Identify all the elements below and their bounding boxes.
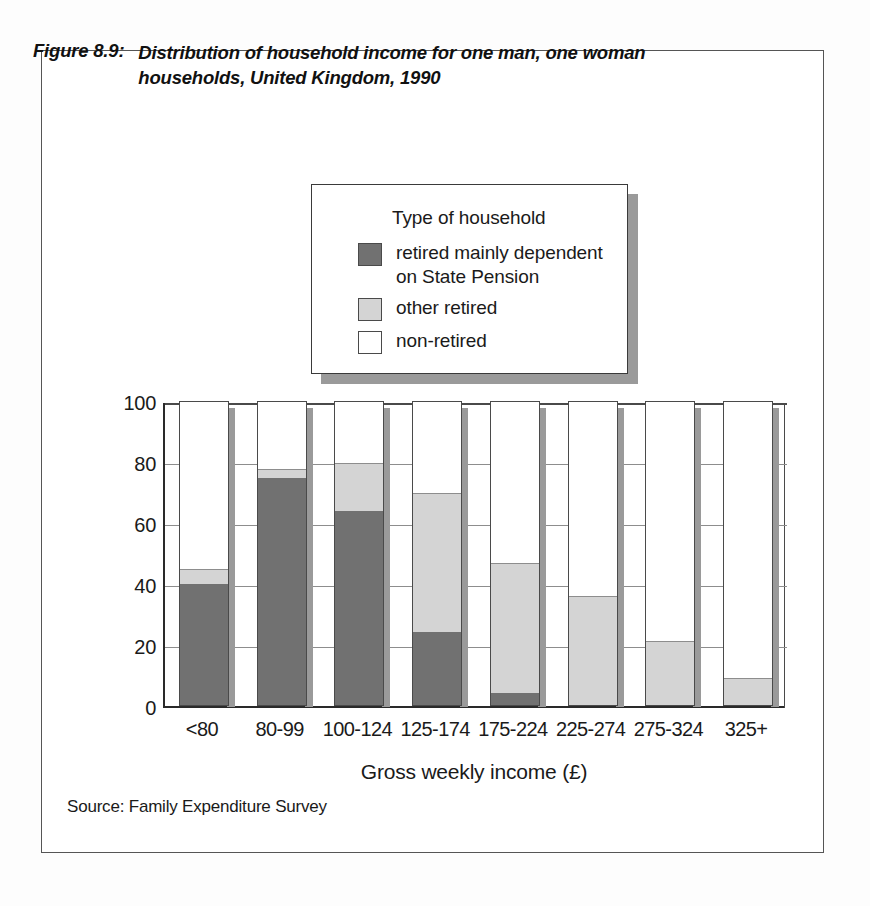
bar-segment: [491, 693, 539, 705]
page-title: Distribution of household income for one…: [138, 40, 698, 90]
bar-group: [632, 401, 710, 706]
legend-swatch-icon: [358, 331, 382, 354]
legend-item-label: non-retired: [396, 329, 487, 353]
y-axis-tick-0: 0: [110, 697, 156, 720]
source-note: Source: Family Expenditure Survey: [67, 797, 327, 817]
figure-page: Figure 8.9: Distribution of household in…: [0, 0, 870, 906]
stacked-bar[interactable]: [490, 401, 540, 706]
bar-segment: [569, 402, 617, 596]
x-axis-tick-125-174: 125-174: [396, 718, 474, 741]
bar-group: [243, 401, 321, 706]
y-axis-ticks: 020406080100: [104, 403, 156, 708]
bar-segment: [335, 463, 383, 511]
bar-segment: [258, 478, 306, 705]
stacked-bar[interactable]: [412, 401, 462, 706]
bar-group: [554, 401, 632, 706]
bar-group: [321, 401, 399, 706]
chart-plot-area: [163, 403, 785, 708]
bar-segment: [413, 493, 461, 632]
bar-segment: [180, 402, 228, 569]
x-axis-label: Gross weekly income (£): [163, 760, 785, 784]
bar-segment: [180, 584, 228, 705]
y-axis-tick-80: 80: [110, 453, 156, 476]
legend-swatch-icon: [358, 243, 382, 266]
bar-group: [165, 401, 243, 706]
bar-group: [709, 401, 787, 706]
y-axis-tick-60: 60: [110, 514, 156, 537]
bar-segment: [413, 632, 461, 705]
bar-segment: [180, 569, 228, 584]
bar-segment: [724, 402, 772, 678]
x-axis-tick-325+: 325+: [707, 718, 785, 741]
legend-item-retired-state-pension: retired mainly dependent on State Pensio…: [330, 241, 615, 288]
bar-segment: [335, 511, 383, 705]
x-axis-tick-275-324: 275-324: [630, 718, 708, 741]
bar-segment: [724, 678, 772, 705]
bar-segment: [569, 596, 617, 705]
figure-title-block: Figure 8.9: Distribution of household in…: [33, 40, 733, 90]
legend-item-label: other retired: [396, 296, 497, 320]
legend-item-other-retired: other retired: [330, 296, 615, 321]
x-axis-tick-225-274: 225-274: [552, 718, 630, 741]
x-axis-tick-100-124: 100-124: [319, 718, 397, 741]
plot-inner: [165, 403, 785, 706]
stacked-bar[interactable]: [334, 401, 384, 706]
chart-legend: Type of household retired mainly depende…: [311, 184, 628, 374]
bar-group: [476, 401, 554, 706]
stacked-bar[interactable]: [568, 401, 618, 706]
bar-segment: [491, 402, 539, 563]
bar-segment: [646, 402, 694, 641]
bar-segment: [413, 402, 461, 493]
x-axis-tick-<80: <80: [163, 718, 241, 741]
bar-segment: [646, 641, 694, 705]
legend-item-label: retired mainly dependent on State Pensio…: [396, 241, 615, 288]
stacked-bar[interactable]: [723, 401, 773, 706]
stacked-bar[interactable]: [257, 401, 307, 706]
x-axis-tick-175-224: 175-224: [474, 718, 552, 741]
bar-group: [398, 401, 476, 706]
x-axis-tick-80-99: 80-99: [241, 718, 319, 741]
legend-swatch-icon: [358, 298, 382, 321]
bar-segment: [335, 402, 383, 463]
bar-segment: [491, 563, 539, 693]
y-axis-tick-20: 20: [110, 636, 156, 659]
stacked-bar[interactable]: [645, 401, 695, 706]
bar-segment: [258, 402, 306, 469]
y-axis-tick-40: 40: [110, 575, 156, 598]
bar-segment: [258, 469, 306, 478]
y-axis-tick-100: 100: [110, 392, 156, 415]
figure-number: Figure 8.9:: [33, 40, 124, 62]
stacked-bar[interactable]: [179, 401, 229, 706]
legend-item-non-retired: non-retired: [330, 329, 615, 354]
legend-heading: Type of household: [392, 207, 615, 229]
